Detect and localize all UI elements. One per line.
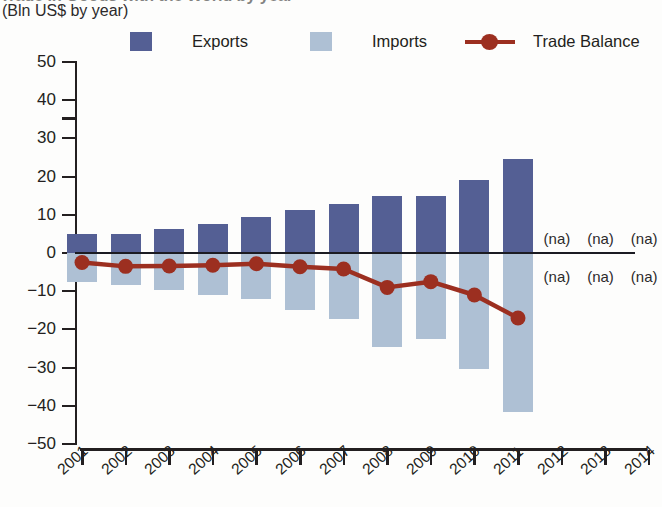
trade-balance-marker <box>336 262 351 277</box>
trade-balance-marker <box>293 259 308 274</box>
trade-balance-marker <box>380 280 395 295</box>
legend-label-imports: Imports <box>372 32 427 51</box>
trade-balance-line-series <box>0 55 662 455</box>
trade-balance-marker <box>423 274 438 289</box>
chart-subtitle: (Bln US$ by year) <box>2 1 128 21</box>
line-marker-swatch-icon <box>465 32 515 51</box>
chart-legend: Exports Imports Trade Balance <box>0 29 662 53</box>
plot-area: 50403020100−10−20−30−40−50 (na)(na)(na)(… <box>0 55 662 455</box>
trade-balance-marker <box>205 258 220 273</box>
legend-label-exports: Exports <box>192 32 248 51</box>
square-swatch-icon <box>310 32 332 51</box>
trade-balance-marker <box>75 255 90 270</box>
trade-balance-marker <box>118 259 133 274</box>
trade-balance-marker <box>467 288 482 303</box>
trade-balance-marker <box>249 256 264 271</box>
x-axis: 2001200220032004200520062007200820092010… <box>0 448 662 507</box>
trade-balance-marker <box>162 258 177 273</box>
legend-item-exports[interactable]: Exports <box>130 29 248 53</box>
square-swatch-icon <box>130 32 152 51</box>
legend-item-imports[interactable]: Imports <box>310 29 427 53</box>
trade-balance-marker <box>511 310 526 325</box>
legend-label-trade-balance: Trade Balance <box>533 32 640 51</box>
legend-item-trade-balance[interactable]: Trade Balance <box>465 29 640 53</box>
